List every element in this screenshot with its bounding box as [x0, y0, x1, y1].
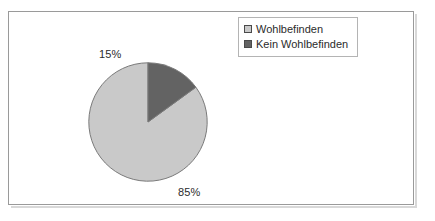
frame-shadow-right: [415, 14, 417, 207]
legend-color-swatch-icon: [244, 25, 252, 33]
pie-chart-figure: 15% 85% Wohlbefinden Kein Wohlbefinden: [0, 0, 435, 221]
chart-legend: Wohlbefinden Kein Wohlbefinden: [238, 17, 358, 57]
legend-item-wohlbefinden[interactable]: Wohlbefinden: [244, 22, 352, 36]
data-label-wohlbefinden: 85%: [178, 186, 200, 198]
legend-item-label: Kein Wohlbefinden: [256, 38, 348, 50]
legend-item-label: Wohlbefinden: [256, 23, 323, 35]
pie-svg: [88, 62, 208, 182]
legend-item-kein-wohlbefinden[interactable]: Kein Wohlbefinden: [244, 37, 352, 51]
frame-shadow-bottom: [11, 206, 417, 208]
legend-color-swatch-icon: [244, 40, 252, 48]
data-label-kein-wohlbefinden: 15%: [99, 48, 121, 60]
pie-graphic: [88, 62, 208, 182]
